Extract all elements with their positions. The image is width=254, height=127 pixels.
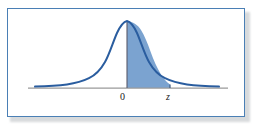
x-axis-label-zero: 0 <box>120 92 125 102</box>
normal-distribution-figure: 0 z <box>0 0 254 127</box>
x-axis-label-z: z <box>166 92 170 102</box>
normal-curve-plot <box>0 0 254 127</box>
